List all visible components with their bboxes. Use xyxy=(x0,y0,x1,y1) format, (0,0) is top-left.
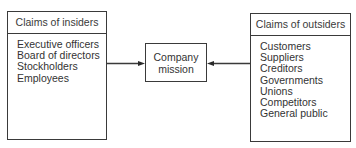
arrowhead-right-icon xyxy=(138,61,145,66)
arrow-outsiders-to-mission xyxy=(207,61,250,66)
arrowhead-left-icon xyxy=(207,61,214,66)
connector-arrows xyxy=(0,0,356,148)
arrow-insiders-to-mission xyxy=(107,61,145,66)
